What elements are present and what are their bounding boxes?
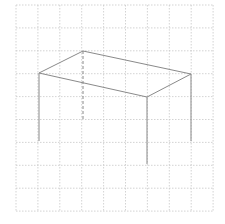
diagram-canvas xyxy=(0,0,225,224)
table-figure xyxy=(39,51,191,164)
grid xyxy=(16,5,213,211)
